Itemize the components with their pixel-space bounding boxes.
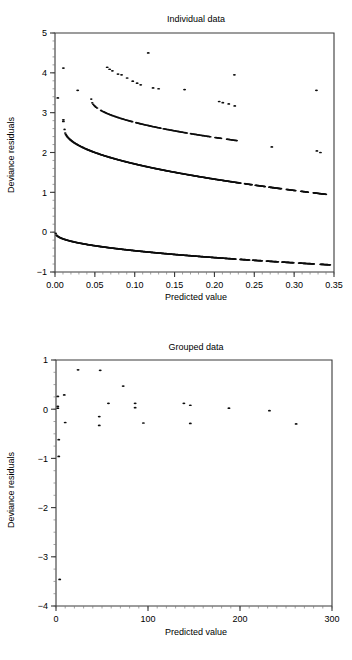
data-point	[96, 107, 99, 109]
data-point	[159, 127, 162, 129]
data-point	[62, 67, 65, 69]
data-point	[98, 416, 101, 418]
data-point	[189, 423, 192, 425]
data-point	[131, 121, 134, 123]
data-point	[134, 407, 137, 409]
x-tick-label: 0.00	[46, 280, 64, 290]
data-point	[268, 410, 271, 412]
data-point	[122, 385, 125, 387]
data-point	[319, 152, 322, 154]
data-point	[218, 101, 221, 103]
data-point	[64, 422, 67, 424]
data-points-grouped	[56, 369, 297, 580]
data-point	[108, 68, 111, 70]
y-axis-label-grouped: Deviance residuals	[6, 451, 16, 528]
y-tick-label: 3	[42, 108, 47, 118]
data-point	[313, 263, 316, 265]
data-point	[183, 89, 186, 91]
data-point	[56, 405, 59, 407]
y-tick-label: −1	[38, 454, 48, 464]
axes-individual: −10123450.000.050.100.150.200.250.300.35	[37, 28, 343, 290]
panel-individual-data: Individual data Deviance residuals Predi…	[0, 0, 352, 330]
y-tick-label: 1	[42, 188, 47, 198]
x-tick-label: 300	[324, 614, 339, 624]
data-point	[315, 90, 318, 92]
plot-frame	[56, 360, 332, 606]
data-point	[233, 74, 236, 76]
data-point	[107, 402, 110, 404]
grouped-data-plot: Grouped data Deviance residuals Predicte…	[0, 330, 352, 660]
x-tick-label: 0.05	[86, 280, 104, 290]
data-point	[248, 259, 251, 261]
data-point	[120, 74, 123, 76]
y-tick-label: 4	[42, 68, 47, 78]
x-tick-label: 0.25	[246, 280, 264, 290]
data-point	[157, 88, 160, 90]
data-point	[292, 262, 295, 264]
y-tick-label: 1	[43, 355, 48, 365]
data-point	[221, 102, 224, 104]
y-tick-label: −2	[38, 503, 48, 513]
data-point	[220, 138, 223, 140]
data-point	[142, 422, 145, 424]
data-points-individual	[55, 52, 332, 266]
y-tick-label: −1	[37, 267, 47, 277]
data-point	[56, 396, 59, 398]
data-point	[62, 121, 65, 123]
data-point	[233, 105, 236, 107]
data-point	[139, 84, 142, 86]
data-point	[56, 407, 59, 409]
data-point	[77, 369, 80, 371]
x-tick-label: 200	[232, 614, 247, 624]
data-point	[234, 258, 237, 260]
data-point	[134, 402, 137, 404]
data-point	[294, 190, 297, 192]
y-tick-label: 0	[43, 405, 48, 415]
data-point	[76, 90, 79, 92]
y-axis-label-individual: Deviance residuals	[6, 116, 16, 193]
data-point	[186, 132, 189, 134]
data-point	[280, 188, 283, 190]
data-point	[227, 407, 230, 409]
data-point	[106, 66, 109, 68]
x-tick-label: 0.35	[325, 280, 343, 290]
x-axis-label-individual: Predicted value	[165, 292, 227, 302]
data-point	[277, 261, 280, 263]
data-point	[63, 129, 66, 131]
data-point	[111, 70, 114, 72]
data-point	[329, 264, 332, 266]
data-point	[227, 103, 230, 105]
data-point	[264, 186, 267, 188]
x-tick-label: 100	[140, 614, 155, 624]
y-tick-label: 0	[42, 227, 47, 237]
data-point	[57, 456, 60, 458]
y-tick-label: −4	[38, 601, 48, 611]
data-point	[98, 425, 101, 427]
x-tick-label: 0	[53, 614, 58, 624]
data-point	[182, 402, 185, 404]
data-point	[55, 233, 58, 235]
data-point	[136, 82, 139, 84]
y-tick-label: 2	[42, 148, 47, 158]
data-point	[307, 191, 310, 193]
data-point	[58, 579, 61, 581]
x-axis-label-grouped: Predicted value	[165, 627, 227, 637]
data-point	[90, 98, 93, 100]
data-point	[56, 97, 59, 99]
x-tick-label: 0.20	[206, 280, 224, 290]
data-point	[99, 369, 102, 371]
data-point	[147, 52, 150, 54]
data-point	[62, 119, 65, 121]
chart-title-grouped: Grouped data	[168, 342, 223, 352]
data-point	[235, 140, 238, 142]
data-point	[251, 184, 254, 186]
data-point	[270, 146, 273, 148]
data-point	[57, 439, 60, 441]
data-point	[261, 260, 264, 262]
y-tick-label: 5	[42, 28, 47, 38]
x-tick-label: 0.15	[166, 280, 184, 290]
chart-title-individual: Individual data	[167, 14, 225, 24]
data-point	[131, 80, 134, 82]
data-point	[91, 102, 94, 104]
data-point	[116, 73, 119, 75]
